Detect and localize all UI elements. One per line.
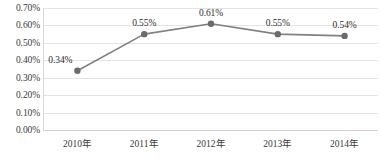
data-point-marker [74,68,80,74]
data-point-label: 0.61% [199,8,223,18]
y-axis-tick-label: 0.20% [16,90,40,100]
data-point-marker [141,31,147,37]
data-point-marker [341,33,347,39]
data-point-label: 0.55% [132,18,156,28]
y-axis-tick-label: 0.00% [16,125,40,135]
data-point-marker [208,20,214,26]
data-point-label: 0.54% [333,20,357,30]
x-axis-tick-label: 2010年 [63,136,92,150]
y-axis-tick-label: 0.50% [16,38,40,48]
data-point-label: 0.55% [266,18,290,28]
y-axis-tick-label: 0.30% [16,73,40,83]
x-axis: 2010年2011年2012年2013年2014年 [44,134,378,158]
x-axis-tick-label: 2012年 [197,136,226,150]
x-axis-tick-label: 2011年 [130,136,159,150]
y-axis-tick-label: 0.70% [16,3,40,13]
data-point-marker [275,31,281,37]
x-axis-tick-label: 2014年 [330,136,359,150]
series-line [77,24,344,71]
y-axis-tick-label: 0.10% [16,108,40,118]
line-chart: 0.70%0.60%0.50%0.40%0.30%0.20%0.10%0.00%… [0,0,381,165]
x-axis-tick-label: 2013年 [263,136,292,150]
y-axis-tick-label: 0.60% [16,20,40,30]
axis-baseline [44,130,378,131]
data-point-label: 0.34% [48,55,72,65]
y-axis: 0.70%0.60%0.50%0.40%0.30%0.20%0.10%0.00% [0,0,44,130]
plot-area: 0.34%0.55%0.61%0.55%0.54% [44,8,378,130]
data-series [44,8,378,130]
y-axis-tick-label: 0.40% [16,55,40,65]
